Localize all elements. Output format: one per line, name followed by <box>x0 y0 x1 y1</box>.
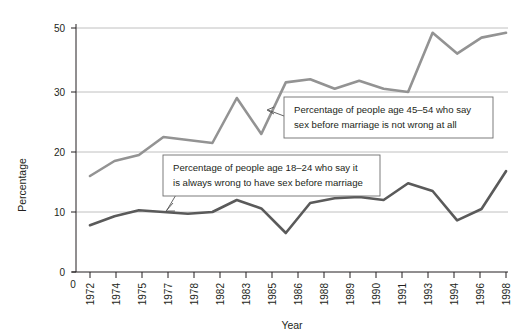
x-tick-label-1986: 1986 <box>293 283 304 306</box>
x-tick-label-1994: 1994 <box>449 283 460 306</box>
x-tick-label-1991: 1991 <box>397 283 408 306</box>
x-tick-label-1982: 1982 <box>215 283 226 306</box>
annotation-45-54-line1: Percentage of people age 45–54 who say <box>294 104 471 115</box>
annotation-45-54: Percentage of people age 45–54 who say s… <box>284 97 493 138</box>
x-tick-label-1974: 1974 <box>111 283 122 306</box>
line-chart-svg: 50 30 20 10 0 Percentage 0 <box>0 0 522 334</box>
x-tick-labels: 1972 1974 1975 1977 1978 1982 1983 1985 … <box>85 283 512 306</box>
x-tick-label-1990: 1990 <box>371 283 382 306</box>
y-tick-label-30: 30 <box>54 87 66 98</box>
annotation-45-54-line2: sex before marriage is not wrong at all <box>294 119 457 130</box>
annotation-18-24: Percentage of people age 18–24 who say i… <box>163 155 380 196</box>
y-tick-label-0: 0 <box>59 267 65 278</box>
x-origin-label: 0 <box>70 279 76 290</box>
y-tick-labels: 50 30 20 10 0 <box>54 23 66 278</box>
annotation-18-24-line2: is always wrong to have sex before marri… <box>173 177 363 188</box>
chart-figure: 50 30 20 10 0 Percentage 0 <box>0 0 522 334</box>
x-axis-title: Year <box>281 319 303 331</box>
x-tick-label-1983: 1983 <box>241 283 252 306</box>
x-tick-label-1989: 1989 <box>345 283 356 306</box>
annotation-18-24-line1: Percentage of people age 18–24 who say i… <box>173 162 358 173</box>
x-tick-label-1988: 1988 <box>319 283 330 306</box>
y-tick-label-10: 10 <box>54 207 66 218</box>
x-tick-label-1978: 1978 <box>189 283 200 306</box>
y-axis-title: Percentage <box>16 158 28 212</box>
x-tick-label-1975: 1975 <box>137 283 148 306</box>
x-tick-label-1998: 1998 <box>501 283 512 306</box>
y-tick-label-20: 20 <box>54 147 66 158</box>
y-tick-label-50: 50 <box>54 23 66 34</box>
x-ticks <box>90 272 506 278</box>
x-tick-label-1985: 1985 <box>267 283 278 306</box>
x-tick-label-1996: 1996 <box>475 283 486 306</box>
x-tick-label-1977: 1977 <box>163 283 174 306</box>
y-ticks <box>71 28 76 272</box>
x-tick-label-1972: 1972 <box>85 283 96 306</box>
x-tick-label-1993: 1993 <box>423 283 434 306</box>
